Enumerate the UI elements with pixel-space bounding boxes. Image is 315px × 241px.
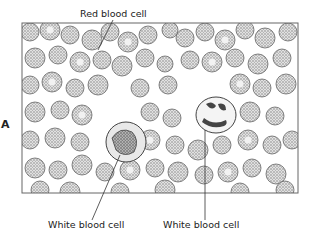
label-white-blood-cell-left: White blood cell	[48, 219, 124, 230]
label-white-blood-cell-right: White blood cell	[163, 219, 239, 230]
red-blood-cells	[21, 20, 301, 202]
white-blood-cell-1	[106, 122, 146, 162]
white-blood-cell-2	[196, 97, 236, 133]
label-red-blood-cell: Red blood cell	[80, 8, 147, 19]
panel-letter: A	[1, 118, 10, 131]
blood-smear-illustration	[0, 0, 315, 241]
